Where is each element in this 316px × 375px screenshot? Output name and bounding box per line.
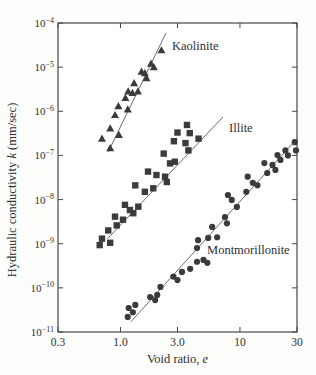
montmorillonite-marker-circle xyxy=(174,277,180,283)
y-tick-label: 10−5 xyxy=(34,60,54,74)
illite-marker-square xyxy=(185,147,191,153)
montmorillonite-marker-circle xyxy=(234,204,240,210)
montmorillonite-marker-circle xyxy=(157,284,163,290)
illite-marker-square xyxy=(164,179,170,185)
montmorillonite-marker-circle xyxy=(277,157,283,163)
montmorillonite-marker-circle xyxy=(261,160,267,166)
illite-marker-square xyxy=(153,172,159,178)
montmorillonite-marker-circle xyxy=(285,152,291,158)
montmorillonite-marker-circle xyxy=(154,292,160,298)
x-tick-label: 30 xyxy=(291,336,303,348)
illite-marker-square xyxy=(174,129,180,135)
montmorillonite-marker-circle xyxy=(293,147,299,153)
y-axis-title: Hydraulic conductivity k (mm/sec) xyxy=(5,103,19,278)
montmorillonite-marker-circle xyxy=(187,266,193,272)
montmorillonite-marker-circle xyxy=(205,235,211,241)
illite-marker-square xyxy=(182,140,188,146)
montmorillonite-marker-circle xyxy=(195,237,201,243)
kaolinite-series-label: Kaolinite xyxy=(172,39,219,53)
montmorillonite-marker-circle xyxy=(254,182,260,188)
illite-marker-square xyxy=(112,213,118,219)
x-axis-title: Void ratio, e xyxy=(147,352,209,366)
montmorillonite-marker-circle xyxy=(179,269,185,275)
montmorillonite-marker-circle xyxy=(225,192,231,198)
montmorillonite-marker-circle xyxy=(194,259,200,265)
illite-series-label: Illite xyxy=(229,121,253,135)
y-tick-label: 10−7 xyxy=(34,148,54,162)
montmorillonite-marker-circle xyxy=(204,260,210,266)
montmorillonite-marker-circle xyxy=(229,197,235,203)
illite-marker-square xyxy=(195,135,201,141)
illite-marker-square xyxy=(105,227,111,233)
montmorillonite-marker-circle xyxy=(264,170,270,176)
montmorillonite-marker-circle xyxy=(194,245,200,251)
y-tick-label: 10−4 xyxy=(34,16,54,30)
illite-marker-square xyxy=(132,182,138,188)
y-tick-label: 10−8 xyxy=(34,192,54,206)
illite-marker-square xyxy=(107,240,113,246)
illite-marker-square xyxy=(167,160,173,166)
montmorillonite-marker-circle xyxy=(272,167,278,173)
figure-container: 0.31.03.0103010−410−510−610−710−810−910−… xyxy=(0,0,316,375)
x-tick-label: 3.0 xyxy=(170,336,185,348)
montmorillonite-marker-circle xyxy=(292,139,298,145)
illite-marker-square xyxy=(142,189,148,195)
illite-marker-square xyxy=(120,216,126,222)
x-tick-label: 1.0 xyxy=(113,336,128,348)
x-tick-label: 10 xyxy=(234,336,246,348)
illite-marker-square xyxy=(99,235,105,241)
y-tick-label: 10−9 xyxy=(34,236,54,250)
montmorillonite-marker-circle xyxy=(132,302,138,308)
illite-marker-square xyxy=(96,242,102,248)
montmorillonite-marker-circle xyxy=(130,309,136,315)
montmorillonite-marker-circle xyxy=(222,214,228,220)
illite-marker-square xyxy=(187,130,193,136)
illite-marker-square xyxy=(114,222,120,228)
y-tick-label: 10−6 xyxy=(34,104,54,118)
illite-marker-square xyxy=(171,138,177,144)
illite-marker-square xyxy=(135,203,141,209)
illite-marker-square xyxy=(184,122,190,128)
montmorillonite-series-label: Montmorillonite xyxy=(207,243,290,257)
illite-marker-square xyxy=(161,150,167,156)
montmorillonite-marker-circle xyxy=(214,234,220,240)
illite-marker-square xyxy=(130,210,136,216)
montmorillonite-marker-circle xyxy=(224,220,230,226)
illite-marker-square xyxy=(150,185,156,191)
hydraulic-conductivity-chart: 0.31.03.0103010−410−510−610−710−810−910−… xyxy=(0,0,316,375)
montmorillonite-marker-circle xyxy=(243,189,249,195)
x-tick-label: 0.3 xyxy=(51,336,66,348)
montmorillonite-marker-circle xyxy=(209,224,215,230)
y-tick-label: 10−10 xyxy=(30,280,54,294)
illite-marker-square xyxy=(145,168,151,174)
montmorillonite-marker-circle xyxy=(125,314,131,320)
montmorillonite-marker-circle xyxy=(245,174,251,180)
